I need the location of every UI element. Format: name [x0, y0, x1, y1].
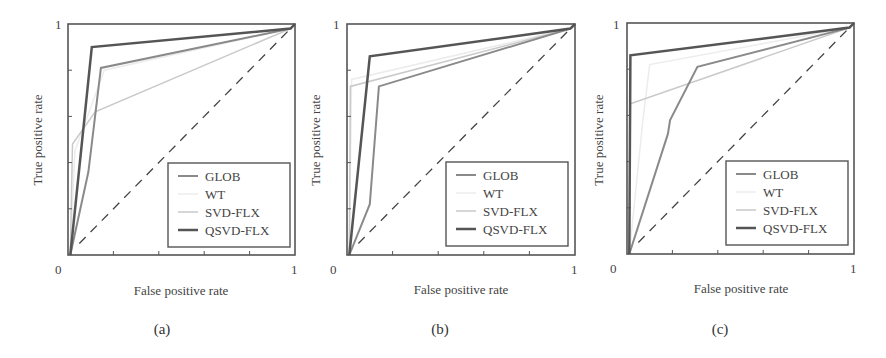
x-axis-label: False positive rate: [134, 283, 229, 298]
x-axis-label: False positive rate: [694, 281, 789, 296]
x-tick-1: 1: [850, 261, 857, 276]
legend-label-wt: WT: [205, 187, 225, 202]
panel-caption: (c): [712, 321, 729, 338]
legend-label-qsvd-flx: QSVD-FLX: [483, 222, 548, 237]
panel-c: 1 0 1 False positive rate True positive …: [591, 17, 857, 338]
roc-figure: 1 0 1 False positive rate True positive …: [0, 0, 886, 358]
panel-b: 1 0 1 False positive rate True positive …: [308, 17, 578, 338]
legend-label-svd-flx: SVD-FLX: [483, 204, 539, 219]
panel-a: 1 0 1 False positive rate True positive …: [30, 17, 298, 338]
x-tick-1: 1: [571, 262, 578, 277]
legend-label-glob: GLOB: [483, 168, 519, 183]
legend: GLOBWTSVD-FLXQSVD-FLX: [726, 161, 848, 245]
legend-label-wt: WT: [763, 185, 783, 200]
y-axis-label: True positive rate: [30, 94, 45, 185]
panel-caption: (b): [431, 321, 449, 338]
x-tick-0: 0: [330, 262, 337, 277]
legend-label-svd-flx: SVD-FLX: [205, 205, 261, 220]
x-tick-0: 0: [55, 262, 62, 277]
y-tick-1: 1: [613, 17, 620, 32]
y-tick-1: 1: [333, 17, 340, 32]
x-tick-0: 0: [610, 261, 617, 276]
y-axis-label: True positive rate: [308, 94, 323, 185]
y-axis-label: True positive rate: [591, 94, 606, 185]
panel-caption: (a): [154, 321, 171, 338]
legend-label-wt: WT: [483, 186, 503, 201]
legend: GLOBWTSVD-FLXQSVD-FLX: [446, 162, 568, 246]
y-tick-1: 1: [55, 17, 62, 32]
legend-label-glob: GLOB: [205, 169, 241, 184]
x-tick-1: 1: [291, 262, 298, 277]
legend-label-qsvd-flx: QSVD-FLX: [763, 221, 828, 236]
legend: GLOBWTSVD-FLXQSVD-FLX: [168, 163, 290, 247]
legend-label-qsvd-flx: QSVD-FLX: [205, 223, 270, 238]
x-axis-label: False positive rate: [414, 282, 509, 297]
legend-label-glob: GLOB: [763, 167, 799, 182]
legend-label-svd-flx: SVD-FLX: [763, 203, 819, 218]
